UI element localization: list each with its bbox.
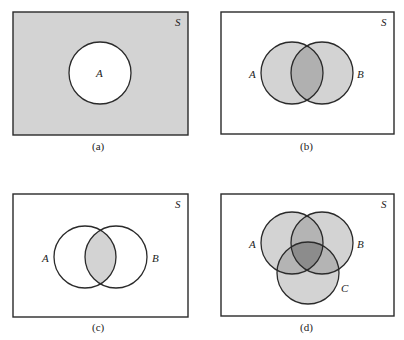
caption-b: (b): [300, 140, 313, 153]
universe-label-d: S: [381, 198, 387, 210]
venn-diagram-figure: A S (a) A B S (b) A B S (c): [0, 0, 404, 340]
set-a-label: A: [248, 238, 256, 250]
set-b-label: B: [357, 68, 364, 80]
caption-a: (a): [92, 140, 105, 153]
universe-label-a: S: [175, 16, 181, 28]
universe-label-b: S: [381, 16, 387, 28]
set-c-label: C: [341, 282, 349, 294]
set-a-label: A: [95, 67, 103, 79]
universe-label-c: S: [175, 198, 181, 210]
panel-a: A S (a): [13, 12, 188, 153]
panel-b: A B S (b): [221, 12, 394, 153]
panel-d: A B C S (d): [221, 194, 394, 334]
set-a-label: A: [41, 252, 49, 264]
caption-d: (d): [300, 321, 313, 334]
set-b-label: B: [152, 252, 159, 264]
set-b-label: B: [357, 238, 364, 250]
caption-c: (c): [92, 321, 105, 334]
panel-c: A B S (c): [13, 194, 188, 334]
set-a-label: A: [248, 68, 256, 80]
